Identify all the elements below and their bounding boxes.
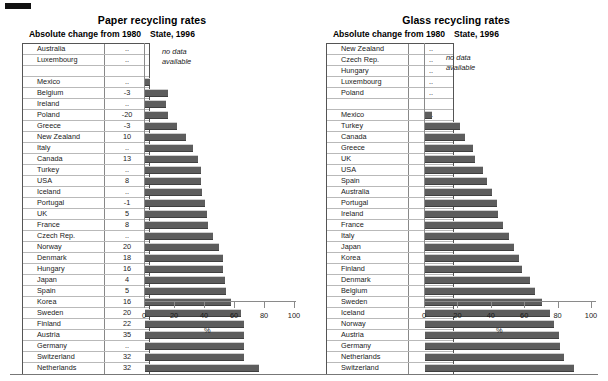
table-row: Hungary16 [23, 264, 149, 275]
absolute-change-value: 8 [105, 176, 149, 186]
x-tick [591, 302, 592, 308]
country-name: Turkey [327, 121, 409, 131]
country-name: Norway [327, 319, 409, 329]
absolute-change-value: 4 [105, 275, 149, 285]
country-name: Belgium [327, 286, 409, 296]
absolute-change-value [105, 66, 149, 76]
table-row: Denmark18 [23, 253, 149, 264]
bar [425, 111, 432, 119]
absolute-change-value: .. [105, 187, 149, 197]
country-name: Czech Rep. [23, 231, 105, 241]
x-tick-label: 60 [520, 311, 528, 320]
panel-title-paper: Paper recycling rates [0, 14, 304, 26]
country-name: Korea [327, 253, 409, 263]
bar [425, 287, 535, 295]
x-tick [491, 302, 492, 308]
bar [425, 166, 483, 174]
x-tick [524, 302, 525, 308]
country-name: Ireland [23, 99, 105, 109]
country-name: Switzerland [23, 352, 105, 362]
bar [425, 276, 530, 284]
x-axis-unit-paper: % [204, 326, 211, 335]
table-row: UK5 [23, 209, 149, 220]
country-name: Canada [23, 154, 105, 164]
country-name: Netherlands [327, 352, 409, 362]
country-name: USA [327, 165, 409, 175]
bar [145, 320, 244, 328]
country-name: France [327, 220, 409, 230]
absolute-change-value: 22 [105, 319, 149, 329]
bar [145, 331, 244, 339]
x-tick [294, 302, 295, 308]
country-name: Portugal [327, 198, 409, 208]
country-name: Denmark [327, 275, 409, 285]
table-row: Switzerland32 [23, 352, 149, 363]
x-tick-label: 100 [585, 311, 597, 320]
bar [145, 221, 208, 229]
table-row: Australia.. [23, 44, 149, 55]
table-row: Norway20 [23, 242, 149, 253]
country-name: Italy [23, 143, 105, 153]
bar [145, 78, 150, 86]
country-name: Korea [23, 297, 105, 307]
absolute-change-value: .. [105, 44, 149, 54]
bar [425, 342, 560, 350]
x-axis-glass [424, 301, 596, 302]
bar [145, 166, 201, 174]
country-name: Greece [23, 121, 105, 131]
absolute-change-value: -3 [105, 121, 149, 131]
country-name: Mexico [23, 77, 105, 87]
table-row: Italy.. [23, 143, 149, 154]
x-tick-label: 100 [288, 311, 300, 320]
country-name: New Zealand [23, 132, 105, 142]
y-axis-glass [424, 43, 425, 302]
bar [145, 243, 219, 251]
country-name: Italy [327, 231, 409, 241]
x-tick [424, 302, 425, 308]
bar [145, 210, 207, 218]
country-name: Finland [23, 319, 105, 329]
absolute-change-value: 18 [105, 253, 149, 263]
bar [425, 243, 514, 251]
bar [145, 265, 223, 273]
x-axis-unit-glass: % [496, 326, 503, 335]
bar [425, 353, 564, 361]
table-row: Luxembourg.. [23, 55, 149, 66]
table-row: Poland-20 [23, 110, 149, 121]
absolute-change-value: .. [105, 165, 149, 175]
country-name: Ireland [327, 209, 409, 219]
absolute-change-value: .. [105, 143, 149, 153]
x-tick [144, 302, 145, 308]
table-row: Ireland.. [23, 99, 149, 110]
absolute-change-value: -3 [105, 88, 149, 98]
country-name: New Zealand [327, 44, 409, 54]
table-row: Sweden20 [23, 308, 149, 319]
table-row: Portugal-1 [23, 198, 149, 209]
x-tick [204, 302, 205, 308]
country-name: Norway [23, 242, 105, 252]
x-tick [558, 302, 559, 308]
country-name: Iceland [327, 308, 409, 318]
bar [145, 155, 198, 163]
bar [425, 122, 460, 130]
country-name: Sweden [327, 297, 409, 307]
country-name: Denmark [23, 253, 105, 263]
bar [145, 287, 226, 295]
x-tick-label: 40 [487, 311, 495, 320]
x-tick [174, 302, 175, 308]
no-data-note-glass: no data available [446, 53, 475, 72]
x-tick-label: 0 [142, 311, 146, 320]
absolute-change-value: .. [105, 77, 149, 87]
country-name: France [23, 220, 105, 230]
absolute-change-value: -20 [105, 110, 149, 120]
absolute-change-value: 13 [105, 154, 149, 164]
country-name: Canada [327, 132, 409, 142]
table-row: Spain5 [23, 286, 149, 297]
panel-glass: Glass recycling rates Absolute change fr… [304, 0, 608, 381]
absolute-change-value: 35 [105, 330, 149, 340]
country-name: Luxembourg [23, 55, 105, 65]
country-name: Finland [327, 264, 409, 274]
absolute-change-value: -1 [105, 198, 149, 208]
bar [145, 122, 177, 130]
country-name: Switzerland [327, 363, 409, 374]
